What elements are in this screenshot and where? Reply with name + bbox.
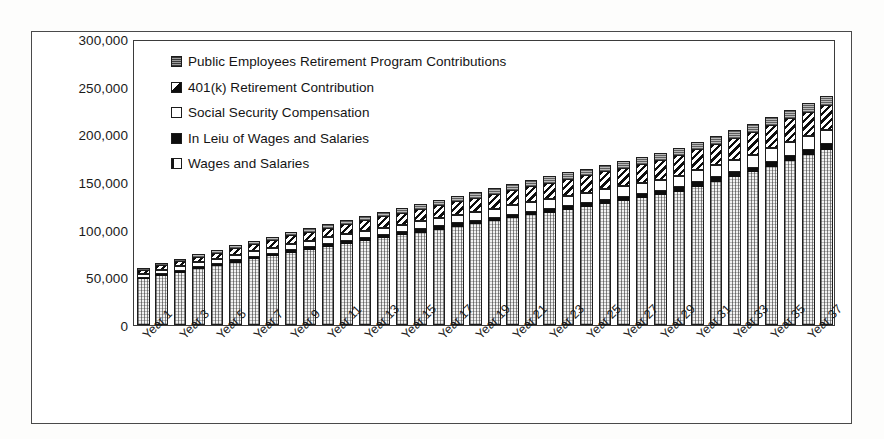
- bar-segment: [285, 253, 298, 325]
- bar-segment: [525, 202, 538, 212]
- bar-segment: [691, 187, 704, 325]
- bar-segment: [691, 182, 704, 187]
- bar-segment: [802, 103, 815, 112]
- bar-column: [765, 117, 778, 325]
- bar-segment: [488, 188, 501, 194]
- bar-segment: [192, 257, 205, 263]
- bar-segment: [673, 148, 686, 155]
- bar-segment: [747, 172, 760, 325]
- bar-segment: [488, 194, 501, 209]
- bar-segment: [155, 263, 168, 265]
- bar-segment: [747, 124, 760, 132]
- bar-segment: [174, 273, 187, 325]
- bar-segment: [266, 237, 279, 240]
- legend-swatch-icon: [171, 107, 182, 118]
- bar-column: [137, 268, 150, 325]
- bar-segment: [155, 270, 168, 274]
- bar-segment: [266, 248, 279, 254]
- bar-segment: [691, 170, 704, 182]
- bar-segment: [543, 176, 556, 182]
- bar-segment: [488, 218, 501, 222]
- bar-segment: [211, 250, 224, 253]
- bar-segment: [414, 209, 427, 221]
- bar-segment: [211, 266, 224, 325]
- bar-segment: [562, 206, 575, 210]
- bar-segment: [784, 161, 797, 325]
- bar-segment: [359, 220, 372, 231]
- bar-segment: [137, 279, 150, 325]
- legend-item-label: Social Security Compensation: [188, 105, 370, 120]
- legend-item: Wages and Salaries: [171, 151, 591, 177]
- bar-segment: [765, 148, 778, 161]
- bar-segment: [525, 212, 538, 216]
- bar-column: [654, 153, 667, 325]
- legend-item-label: Wages and Salaries: [188, 156, 309, 171]
- bar-segment: [322, 237, 335, 244]
- bar-segment: [155, 265, 168, 269]
- bar-segment: [414, 204, 427, 209]
- bar-segment: [710, 165, 723, 177]
- bar-segment: [396, 225, 409, 233]
- bar-column: [784, 110, 797, 325]
- bar-segment: [525, 180, 538, 186]
- bar-segment: [784, 142, 797, 156]
- y-axis-tick-label: 150,000: [79, 176, 129, 191]
- legend-swatch-icon: [171, 56, 182, 67]
- bar-segment: [747, 132, 760, 155]
- bar-segment: [820, 130, 833, 144]
- bar-column: [580, 169, 593, 325]
- bar-segment: [229, 248, 242, 255]
- bar-segment: [543, 199, 556, 209]
- bar-segment: [765, 117, 778, 125]
- bar-segment: [599, 189, 612, 199]
- bar-segment: [303, 232, 316, 241]
- bar-segment: [802, 112, 815, 136]
- y-axis-tick-label: 0: [120, 319, 128, 334]
- legend-swatch-icon: [171, 82, 182, 93]
- bar-segment: [211, 253, 224, 259]
- bar-segment: [192, 267, 205, 269]
- bar-segment: [192, 262, 205, 267]
- bar-segment: [248, 251, 261, 257]
- bar-column: [525, 180, 538, 325]
- bar-column: [543, 176, 556, 325]
- bar-segment: [192, 254, 205, 256]
- bar-segment: [728, 130, 741, 138]
- y-axis: 050,000100,000150,000200,000250,000300,0…: [36, 30, 128, 340]
- bar-segment: [562, 196, 575, 206]
- bar-segment: [229, 245, 242, 248]
- bar-segment: [229, 260, 242, 262]
- bar-column: [636, 157, 649, 325]
- bar-segment: [673, 187, 686, 191]
- x-axis: Year 1Year 3Year 5Year 7Year 9Year 11Yea…: [133, 326, 835, 421]
- bar-segment: [488, 209, 501, 218]
- bar-segment: [469, 212, 482, 221]
- bar-segment: [285, 244, 298, 250]
- legend-item-label: Public Employees Retirement Program Cont…: [188, 54, 506, 69]
- bar-segment: [451, 215, 464, 224]
- legend-item: Social Security Compensation: [171, 100, 591, 126]
- bar-segment: [396, 232, 409, 235]
- y-axis-tick-label: 200,000: [79, 128, 129, 143]
- bar-segment: [820, 150, 833, 325]
- bar-segment: [506, 184, 519, 190]
- bar-segment: [322, 247, 335, 325]
- bar-segment: [599, 165, 612, 172]
- bar-segment: [784, 118, 797, 142]
- bar-segment: [802, 136, 815, 150]
- bar-segment: [506, 215, 519, 219]
- bar-segment: [451, 201, 464, 215]
- bar-segment: [414, 221, 427, 229]
- bar-segment: [728, 138, 741, 160]
- bar-segment: [377, 212, 390, 216]
- bar-column: [211, 250, 224, 325]
- bar-segment: [174, 259, 187, 261]
- legend-item: In Leiu of Wages and Salaries: [171, 126, 591, 152]
- legend-item: Public Employees Retirement Program Cont…: [171, 49, 591, 75]
- bar-segment: [266, 240, 279, 248]
- bar-segment: [248, 257, 261, 259]
- bar-segment: [451, 223, 464, 226]
- bar-segment: [543, 183, 556, 199]
- bar-segment: [211, 259, 224, 264]
- bar-segment: [469, 198, 482, 212]
